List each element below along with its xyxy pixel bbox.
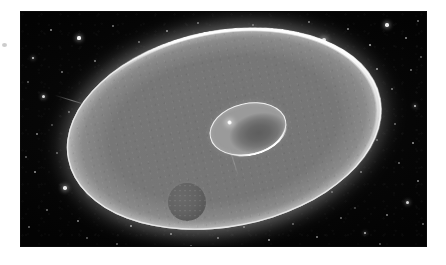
astronomical-plate xyxy=(21,12,426,246)
page-root xyxy=(0,0,446,265)
stray-margin-mark xyxy=(2,43,7,47)
small-sphere-crescent xyxy=(168,183,207,222)
small-sphere xyxy=(168,183,206,221)
